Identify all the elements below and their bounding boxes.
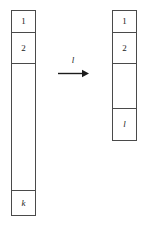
target-cell-l-label: l — [123, 120, 126, 129]
target-cell-1: 1 — [113, 11, 136, 33]
target-cell-2-label: 2 — [122, 44, 127, 53]
right-arrow-icon — [56, 56, 90, 80]
source-column: 1 2 k — [11, 10, 36, 216]
target-cell-ellipsis — [113, 64, 136, 109]
source-cell-1-label: 1 — [21, 17, 26, 26]
transform-arrow: l — [56, 56, 90, 80]
source-cell-ellipsis — [12, 64, 35, 191]
source-cell-k-label: k — [22, 199, 26, 208]
source-cell-1: 1 — [12, 11, 35, 33]
target-cell-1-label: 1 — [122, 17, 127, 26]
target-cell-2: 2 — [113, 33, 136, 64]
source-cell-k: k — [12, 191, 35, 215]
source-cell-2-label: 2 — [21, 44, 26, 53]
target-cell-l: l — [113, 109, 136, 140]
target-column: 1 2 l — [112, 10, 137, 141]
figure-canvas: 1 2 k l 1 2 l — [0, 0, 143, 227]
source-cell-2: 2 — [12, 33, 35, 64]
